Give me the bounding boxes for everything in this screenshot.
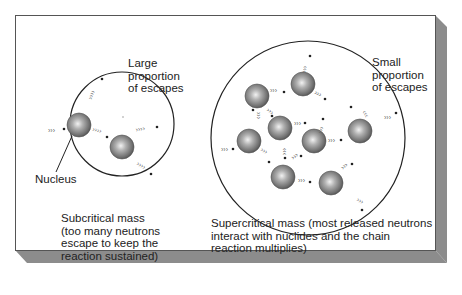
- nucleus-icon: [348, 119, 372, 143]
- supercritical-annotation: Small proportion of escapes: [372, 56, 428, 94]
- svg-text:›››: ›››: [384, 114, 392, 121]
- svg-text:›››: ›››: [298, 177, 306, 184]
- nucleus-icon: [110, 135, 134, 159]
- nucleus-icon: [237, 129, 261, 153]
- nucleus-icon: [245, 84, 269, 108]
- nucleus-icon: [291, 72, 315, 96]
- svg-text:‹‹‹: ‹‹‹: [281, 148, 288, 156]
- svg-text:›››: ›››: [328, 137, 336, 144]
- subcritical-caption: Subcritical mass (too many neutrons esca…: [61, 212, 160, 262]
- svg-text:›››: ›››: [270, 87, 278, 94]
- svg-text:›››: ›››: [294, 120, 302, 127]
- svg-text:›››: ›››: [221, 146, 229, 153]
- subcritical-annotation: Large proportion of escapes: [128, 57, 184, 95]
- svg-text:›››: ›››: [48, 127, 56, 134]
- nucleus-icon: [268, 116, 292, 140]
- nucleus-icon: [271, 165, 295, 189]
- supercritical-caption: Supercritical mass (most released neutro…: [211, 217, 432, 255]
- nucleus-label: Nucleus: [35, 173, 77, 186]
- nucleus-icon: [67, 113, 91, 137]
- frame-shadow-right: [435, 15, 447, 263]
- svg-text:›››: ›››: [255, 112, 262, 120]
- nucleus-icon: [319, 171, 343, 195]
